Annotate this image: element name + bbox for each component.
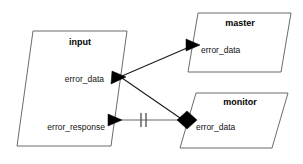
block-master[interactable]: master error_data xyxy=(188,13,291,72)
input-port-error-data-label: error_data xyxy=(65,74,104,84)
connection-input-to-master[interactable] xyxy=(122,45,194,76)
master-title: master xyxy=(225,18,255,28)
monitor-title: monitor xyxy=(223,97,257,107)
input-port-error-response-label: error_response xyxy=(47,122,105,132)
diagram-canvas: input error_data error_response master e… xyxy=(0,0,303,164)
connection-input-to-monitor[interactable] xyxy=(122,78,183,120)
monitor-port-error-data-label: error_data xyxy=(196,122,235,132)
input-title: input xyxy=(69,37,91,47)
master-port-error-data-label: error_data xyxy=(201,45,240,55)
block-input[interactable]: input error_data error_response xyxy=(17,31,127,146)
diagram-svg: input error_data error_response master e… xyxy=(0,0,303,164)
